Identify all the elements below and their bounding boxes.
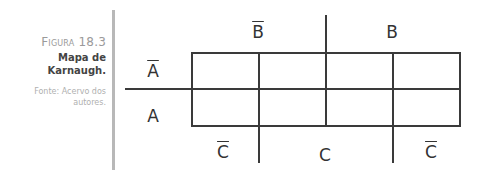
grid-col-line-3 [392, 52, 394, 163]
label-b: B [377, 22, 407, 42]
figure-source-line1: Fonte: Acervo dos [34, 86, 106, 97]
label-a-negated: A [138, 61, 168, 81]
figure-number-value: 18.3 [78, 35, 106, 49]
grid-left-line [191, 52, 193, 127]
grid-middle-line [125, 88, 461, 90]
caption-divider [112, 10, 115, 170]
figure-source-line2: autores. [34, 97, 106, 108]
figure-number: Figura 18.3 [41, 35, 106, 49]
label-c-negated-right: C [416, 142, 446, 162]
label-a: A [138, 106, 168, 126]
grid-col-line-1 [258, 52, 260, 163]
label-c: C [310, 145, 340, 165]
grid-right-line [459, 52, 461, 127]
figure-title-line1: Mapa de [48, 51, 107, 64]
figure-source: Fonte: Acervo dos autores. [34, 86, 106, 108]
figure-title-line2: Karnaugh. [48, 64, 107, 77]
label-b-negated: B [243, 22, 273, 42]
label-c-negated-left: C [208, 142, 238, 162]
figure-prefix: Figura [41, 35, 74, 49]
figure-title: Mapa de Karnaugh. [48, 51, 107, 77]
grid-col-line-2 [325, 15, 327, 127]
